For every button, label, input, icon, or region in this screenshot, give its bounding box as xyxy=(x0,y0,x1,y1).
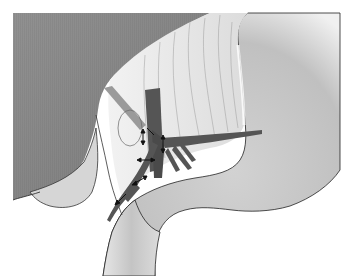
illustration-canvas xyxy=(0,0,352,276)
anatomical-figure xyxy=(0,0,352,276)
